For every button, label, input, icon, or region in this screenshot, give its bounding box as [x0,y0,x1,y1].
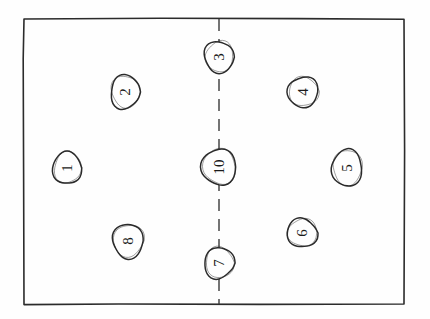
position-circles-group [52,40,362,279]
position-marker-7[interactable] [205,248,235,280]
court-sketch-svg [0,0,430,319]
position-marker-2[interactable] [111,74,140,109]
position-marker-3[interactable] [204,42,234,74]
diagram-canvas: 1234567810 [0,0,430,319]
